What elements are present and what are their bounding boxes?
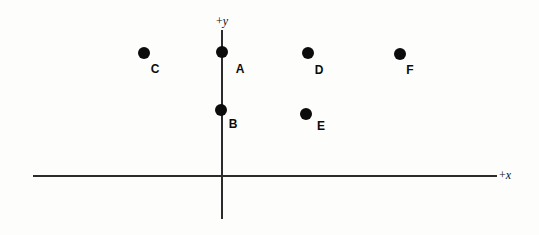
y-axis-label: +y bbox=[216, 15, 228, 27]
data-point-label-f: F bbox=[406, 64, 413, 76]
data-point-f bbox=[394, 48, 406, 60]
y-axis-line bbox=[221, 30, 223, 219]
data-point-label-b: B bbox=[229, 118, 238, 130]
data-point-c bbox=[138, 47, 150, 59]
data-point-label-e: E bbox=[317, 120, 325, 132]
x-axis-label: +x bbox=[499, 169, 511, 181]
data-point-label-c: C bbox=[151, 63, 160, 75]
y-axis-label-sign: + bbox=[216, 14, 223, 28]
data-point-b bbox=[215, 104, 227, 116]
data-point-label-d: D bbox=[315, 64, 324, 76]
x-axis-line bbox=[33, 175, 497, 177]
x-axis-label-sign: + bbox=[499, 168, 506, 182]
coordinate-diagram: +y +x ABCDEF bbox=[0, 0, 539, 235]
y-axis-label-variable: y bbox=[223, 14, 228, 28]
x-axis-label-variable: x bbox=[506, 168, 511, 182]
data-point-e bbox=[300, 108, 312, 120]
data-point-label-a: A bbox=[236, 63, 245, 75]
data-point-d bbox=[302, 47, 314, 59]
data-point-a bbox=[216, 46, 228, 58]
